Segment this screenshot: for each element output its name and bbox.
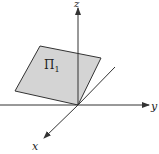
plane-label-subscript: 1 [54, 65, 59, 74]
diagram-canvas: z y x Π1 [0, 0, 159, 154]
plane-pi1 [15, 46, 101, 105]
x-axis-label: x [32, 140, 39, 153]
plane-label-main: Π [44, 58, 54, 72]
x-axis [44, 105, 78, 138]
coordinate-diagram: z y x Π1 [0, 0, 159, 154]
y-axis-label: y [150, 100, 158, 113]
z-axis-label: z [73, 0, 80, 9]
